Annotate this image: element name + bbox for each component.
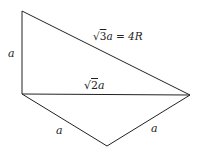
label-hypotenuse: √3a = 4R: [93, 31, 143, 42]
label-middle-diagonal: √2a: [84, 80, 105, 91]
sqrt-symbol: √: [93, 30, 100, 42]
edge-bottom-right: [107, 95, 190, 146]
geometry-diagram: [0, 0, 202, 154]
edge-left-right-diagonal: [22, 94, 190, 95]
label-bottom-left: a: [56, 125, 63, 136]
sqrt-symbol: √: [84, 79, 91, 92]
hypotenuse-rest: a = 4R: [106, 30, 142, 42]
edge-left-bottom: [22, 94, 107, 146]
radicand: 2: [91, 79, 98, 92]
middle-rest: a: [98, 79, 105, 92]
label-left-side: a: [8, 48, 15, 59]
label-bottom-right: a: [151, 123, 158, 134]
edge-top-right-hypotenuse: [22, 11, 190, 95]
